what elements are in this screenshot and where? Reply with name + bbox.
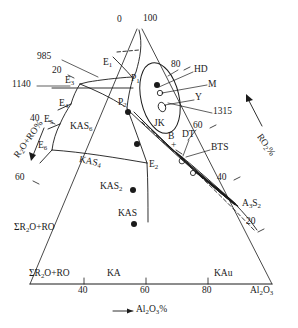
dot-KAS2: [130, 187, 136, 193]
bottom-tick-40: 40: [78, 286, 88, 296]
open-ellipse-Y: [157, 101, 167, 113]
tick-right-20: 20: [246, 217, 256, 227]
boundary-apex-to-P1: [133, 30, 141, 78]
point-P2: P2: [118, 98, 127, 108]
tick-left-60: 60: [15, 173, 25, 183]
bottom-left-end-label: ΣR2O+RO: [29, 269, 70, 279]
tick-left-20: 20: [52, 66, 62, 76]
boundary-bundle-thick: [196, 172, 235, 204]
phase-KAS: KAS: [118, 209, 137, 219]
plus-marker: +: [171, 141, 176, 151]
boundary-E5-E6: [52, 124, 60, 150]
phase-KAS2: KAS2: [100, 182, 122, 192]
point-E3: E3: [65, 76, 74, 86]
point-E4: E4: [59, 99, 68, 109]
annotation-M: M: [208, 80, 216, 90]
temperature-1315: 1315: [213, 107, 232, 117]
bottom-right-end-label: Al2O3: [250, 286, 273, 296]
point-E1: E1: [103, 58, 112, 68]
axis-bottom-ticks: [84, 278, 208, 284]
phase-KAS6: KAS6: [70, 122, 92, 132]
temperature-985: 985: [37, 52, 51, 62]
annotation-DT: DT: [182, 130, 195, 140]
boundary-left-run: [80, 77, 132, 84]
spur-E6: [40, 150, 52, 163]
leader-1315: [168, 103, 212, 113]
point-P1: P1: [131, 74, 140, 84]
tick-right-80: 80: [171, 60, 181, 70]
open-circle-lower-2: [190, 170, 195, 175]
bottom-segment-KA: KA: [107, 269, 121, 279]
phase-A3S2: A3S2: [242, 199, 261, 209]
boundary-E3-E4: [71, 84, 80, 104]
annotation-BTS: BTS: [211, 143, 228, 153]
point-E5: E5: [44, 115, 53, 125]
point-E2: E2: [149, 160, 158, 170]
figure-canvas: 0 100 985 1140 1315 E1 P1 E3 E4 E5 E6 P2…: [0, 0, 298, 328]
tick-right-60: 60: [193, 121, 203, 131]
dot-KAS: [131, 221, 137, 227]
boundary-E2-down: [147, 163, 148, 222]
annotation-Y: Y: [195, 93, 202, 103]
point-E6: E6: [38, 141, 47, 151]
axis-bottom-title: Al2O3%: [136, 305, 167, 315]
annotation-JK: JK: [154, 119, 165, 129]
boundary-E1-branch: [113, 57, 132, 77]
apex-left-label: 0: [117, 15, 122, 25]
dot-KAS6: [125, 109, 131, 115]
boundary-P2-E2: [127, 108, 147, 163]
leader-DT: [183, 140, 189, 156]
temperature-1140: 1140: [12, 80, 31, 90]
apex-right-label: 100: [143, 14, 157, 24]
bottom-tick-80: 80: [202, 286, 212, 296]
left-corner-label: ΣR2O+RO: [14, 223, 55, 233]
annotation-HD: HD: [194, 65, 208, 75]
dot-KAS4: [134, 141, 140, 147]
tick-right-40: 40: [217, 173, 227, 183]
bottom-tick-60: 60: [140, 286, 150, 296]
bottom-segment-KAu: KAu: [214, 269, 232, 279]
